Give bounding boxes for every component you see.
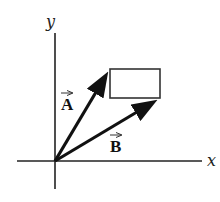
vector-a-arrow	[55, 77, 105, 161]
y-axis-label: y	[45, 12, 56, 31]
rectangle-box	[110, 69, 160, 98]
x-axis-label: x	[207, 151, 216, 170]
vector-diagram: y x A B	[0, 0, 220, 202]
vector-b-label: B	[110, 137, 121, 156]
vector-a-label: A	[61, 95, 74, 114]
